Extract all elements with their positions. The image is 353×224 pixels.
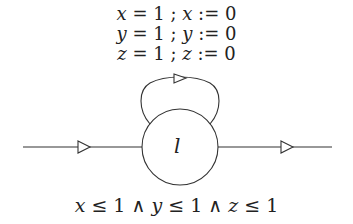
automaton-graphic (0, 0, 353, 224)
arrowhead-icon (78, 141, 90, 153)
incoming-edge (23, 141, 142, 153)
arrowhead-icon (281, 141, 293, 153)
inv-var-x: x (75, 194, 86, 216)
arrowhead-icon (174, 74, 186, 83)
inv-op-3: ≤ 1 (238, 194, 278, 216)
outgoing-edge (218, 141, 332, 153)
inv-op-1: ≤ 1 ∧ (85, 194, 151, 216)
location-label: l (174, 134, 180, 158)
invariant-label: x ≤ 1 ∧ y ≤ 1 ∧ z ≤ 1 (0, 196, 353, 215)
inv-op-2: ≤ 1 ∧ (162, 194, 228, 216)
inv-var-y: y (151, 194, 162, 216)
inv-var-z: z (228, 194, 238, 216)
